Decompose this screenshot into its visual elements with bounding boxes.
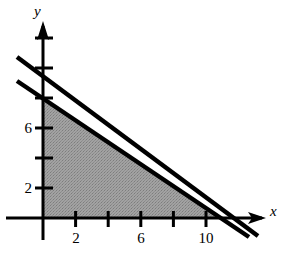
y-axis-label: y	[34, 4, 41, 19]
x-tick-label-6: 6	[137, 231, 145, 246]
x-tick-label-10: 10	[199, 231, 214, 246]
x-axis-label: x	[270, 204, 277, 219]
graph-figure: y x 2 6 10 2 6	[0, 0, 289, 267]
x-tick-label-2: 2	[72, 231, 80, 246]
plot-canvas	[0, 0, 289, 267]
y-tick-label-6: 6	[18, 121, 32, 136]
y-tick-label-2: 2	[18, 181, 32, 196]
